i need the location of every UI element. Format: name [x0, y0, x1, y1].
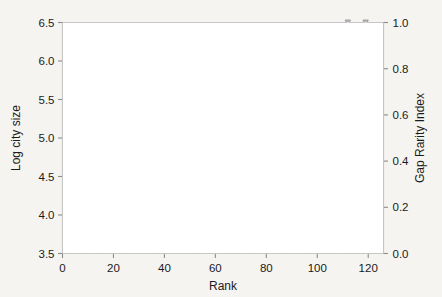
x-tick-label: 0: [59, 262, 65, 274]
y-axis-left-title: Log city size: [9, 105, 23, 171]
y-axis-left-tick-label: 6.5: [39, 17, 55, 29]
x-tick-label: 100: [308, 262, 327, 274]
y-axis-left-tick-label: 5.5: [39, 94, 55, 106]
chart-canvas: 020406080100120 3.54.04.55.05.56.06.5 0.…: [0, 0, 442, 297]
y-axis-left-tick-label: 4.5: [39, 171, 55, 183]
y-axis-right-title: Gap Rarity Index: [413, 93, 427, 183]
y-axis-right-tick-label: 0.8: [393, 63, 409, 75]
x-axis-title: Rank: [209, 279, 238, 293]
y-axis-right-tick-label: 0.6: [393, 109, 409, 121]
x-tick-label: 20: [107, 262, 120, 274]
y-axis-right-tick-label: 1.0: [393, 17, 409, 29]
x-tick-label: 60: [209, 262, 222, 274]
y-axis-left-tick-label: 4.0: [39, 209, 55, 221]
chart-figure: 020406080100120 3.54.04.55.05.56.06.5 0.…: [0, 0, 442, 297]
y-axis-right-tick-label: 0.4: [393, 155, 410, 167]
y-axis-left-tick-label: 6.0: [39, 55, 55, 67]
y-axis-right-tick-label: 0.2: [393, 201, 409, 213]
y-axis-right-tick-label: 0.0: [393, 248, 409, 260]
x-tick-label: 40: [158, 262, 171, 274]
x-tick-label: 80: [260, 262, 273, 274]
y-axis-left-tick-label: 3.5: [39, 248, 55, 260]
y-axis-left-tick-label: 5.0: [39, 132, 55, 144]
x-tick-label: 120: [359, 262, 378, 274]
